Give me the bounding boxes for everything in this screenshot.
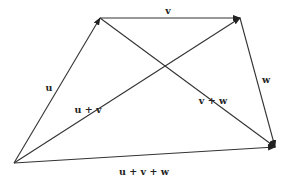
label-v: v <box>164 5 171 16</box>
label-u: u <box>46 82 53 93</box>
vector-addition-diagram: u v w u + v v + w u + v + w <box>0 0 293 180</box>
label-v-plus-w: v + w <box>198 95 228 106</box>
vector-u-arrow <box>14 18 100 163</box>
label-w: w <box>261 74 271 85</box>
vector-v-plus-w-arrow <box>100 18 275 147</box>
vector-u-plus-v-plus-w-arrow <box>14 147 275 163</box>
label-u-plus-v-plus-w: u + v + w <box>119 166 170 177</box>
label-u-plus-v: u + v <box>74 104 101 115</box>
